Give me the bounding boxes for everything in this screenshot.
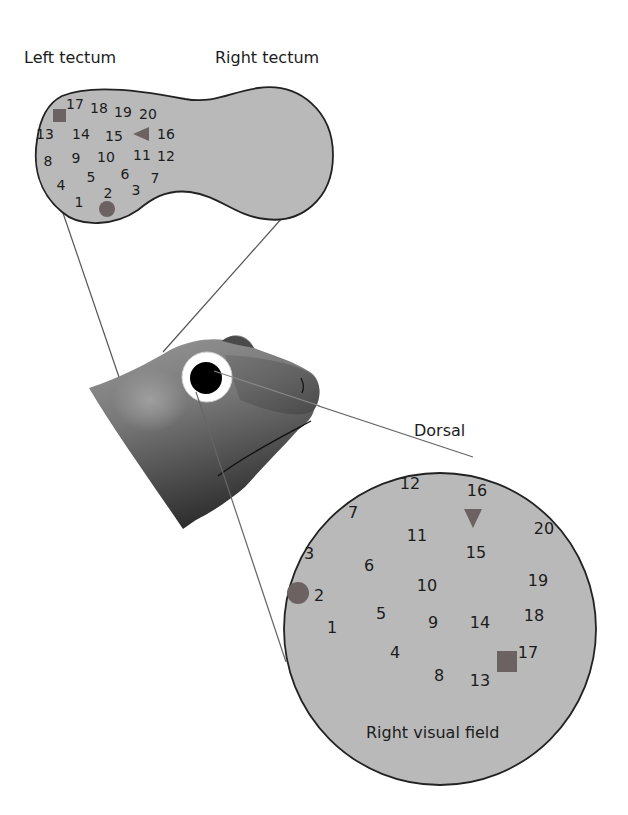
field-point-12: 12 <box>400 474 420 493</box>
tectum-point-10: 10 <box>97 149 115 165</box>
field-point-2: 2 <box>314 586 324 605</box>
square-marker-tectum <box>53 109 66 122</box>
field-point-16: 16 <box>467 481 487 500</box>
tectum-point-13: 13 <box>36 126 54 142</box>
tectum-point-20: 20 <box>139 106 157 122</box>
right-visual-field-label: Right visual field <box>366 723 499 742</box>
field-point-11: 11 <box>407 526 427 545</box>
right-tectum-label: Right tectum <box>215 48 319 67</box>
field-point-9: 9 <box>428 613 438 632</box>
tectum-point-9: 9 <box>72 150 81 166</box>
field-point-14: 14 <box>470 613 490 632</box>
left-tectum-label: Left tectum <box>24 48 116 67</box>
tectum-point-6: 6 <box>121 166 130 182</box>
lizard-head <box>89 335 320 529</box>
tectum-point-12: 12 <box>157 148 175 164</box>
projection-line-left-tectum <box>63 213 120 380</box>
field-point-18: 18 <box>524 606 544 625</box>
tectal-map-diagram: Left tectum Right tectum 123456789101112… <box>0 0 628 815</box>
field-point-4: 4 <box>390 643 400 662</box>
tectum-point-1: 1 <box>75 194 84 210</box>
square-marker-field <box>497 651 517 672</box>
tectum-point-11: 11 <box>133 147 151 163</box>
tectum-point-8: 8 <box>44 153 53 169</box>
eye-pupil <box>190 362 222 394</box>
tectum-point-4: 4 <box>57 177 66 193</box>
field-point-6: 6 <box>364 556 374 575</box>
tectum-point-18: 18 <box>90 100 108 116</box>
dorsal-label: Dorsal <box>414 421 465 440</box>
tectum-point-5: 5 <box>87 169 96 185</box>
field-point-20: 20 <box>534 519 554 538</box>
field-point-15: 15 <box>466 543 486 562</box>
tectum-point-2: 2 <box>104 185 113 201</box>
projection-line-right-tectum <box>163 218 282 352</box>
field-point-5: 5 <box>376 604 386 623</box>
circle-marker-field <box>287 582 309 604</box>
tectum-point-16: 16 <box>157 126 175 142</box>
field-point-17: 17 <box>518 643 538 662</box>
tectum-point-3: 3 <box>132 182 141 198</box>
circle-marker-tectum <box>99 201 115 217</box>
field-point-3: 3 <box>304 544 314 563</box>
field-point-19: 19 <box>528 571 548 590</box>
tectum-point-7: 7 <box>151 170 160 186</box>
tectum-point-19: 19 <box>114 104 132 120</box>
tectum-point-14: 14 <box>72 126 90 142</box>
field-point-7: 7 <box>348 503 358 522</box>
tectum-point-15: 15 <box>105 128 123 144</box>
field-point-10: 10 <box>417 576 437 595</box>
field-point-1: 1 <box>327 618 337 637</box>
tectum-point-17: 17 <box>66 96 84 112</box>
field-point-13: 13 <box>470 671 490 690</box>
field-point-8: 8 <box>434 666 444 685</box>
